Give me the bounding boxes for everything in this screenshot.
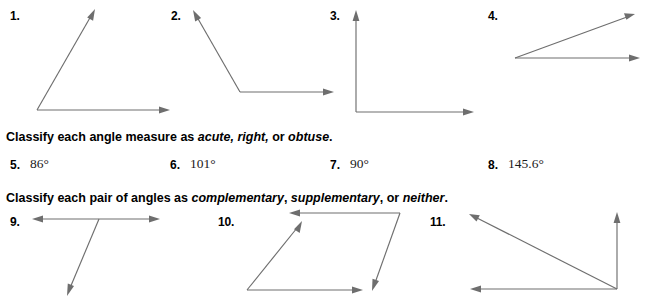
figure-3-right-angle	[353, 10, 474, 115]
figure-10-upper-diagonal-arrowhead	[372, 279, 379, 291]
worksheet-page: 1. 2. 3. 4. 9. 10. 11. Classify each ang…	[0, 0, 646, 299]
figure-1-diagonal-ray	[37, 16, 91, 110]
figure-2-obtuse-angle	[193, 10, 334, 95]
figure-4-diagonal-ray	[515, 17, 627, 58]
figure-11-diagonal-ray	[477, 218, 617, 289]
figure-4-horizontal-arrowhead	[629, 55, 640, 62]
figure-10-upper-diagonal-ray	[375, 213, 400, 283]
figure-9-descending-ray	[70, 219, 99, 288]
figure-11-angle-pair	[469, 212, 620, 292]
figure-11-diagonal-arrowhead	[469, 214, 480, 221]
figure-2-diagonal-ray	[197, 17, 240, 92]
figure-10-lower-diagonal-ray	[247, 228, 297, 290]
figure-11-horizontal-arrowhead	[470, 286, 481, 293]
figure-1-horizontal-arrowhead	[159, 107, 170, 114]
figure-4-acute-angle	[515, 13, 640, 61]
figure-1-acute-angle	[37, 9, 170, 113]
figure-10-lower-diagonal-arrowhead	[294, 221, 302, 233]
figure-1-diagonal-arrowhead	[87, 9, 95, 21]
figure-2-diagonal-arrowhead	[193, 10, 201, 21]
figure-9-right-arrowhead	[149, 216, 160, 223]
figure-9-left-arrowhead	[32, 216, 43, 223]
figure-4-diagonal-arrowhead	[624, 13, 635, 20]
figure-2-horizontal-arrowhead	[323, 89, 334, 96]
figures-canvas	[0, 0, 646, 299]
figure-11-vertical-arrowhead	[614, 212, 621, 223]
figure-10-angle-pair	[247, 210, 400, 294]
figure-10-upper-horizontal-arrowhead	[289, 210, 300, 217]
figure-9-angle-pair	[32, 216, 160, 296]
figure-9-descending-arrowhead	[67, 283, 74, 296]
figure-3-vertical-arrowhead	[353, 10, 360, 21]
figure-3-horizontal-arrowhead	[463, 109, 474, 116]
figure-10-lower-horizontal-arrowhead	[352, 287, 363, 294]
